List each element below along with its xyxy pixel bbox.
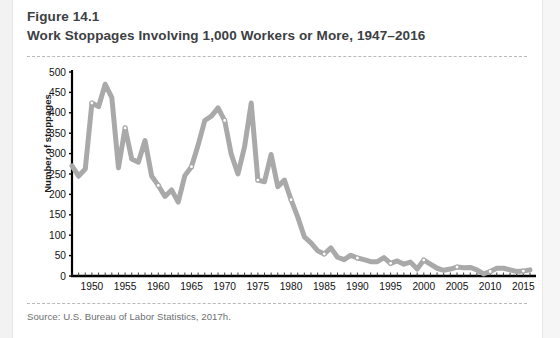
x-tick-label: 1995 [379,281,402,292]
data-point-marker [156,183,160,187]
x-tick-label: 1950 [81,281,104,292]
data-point-marker [256,178,260,182]
data-point-marker [389,261,393,265]
chart-area: Number of stoppages 05010015020025030035… [13,56,542,303]
x-tick-label: 1980 [280,281,303,292]
data-point-marker [521,269,525,273]
x-tick-label: 2000 [412,281,435,292]
figure-label: Figure 14.1 [27,9,99,24]
data-point-marker [123,126,127,130]
x-tick-label: 1975 [247,281,270,292]
data-point-marker [90,101,94,105]
y-tick-label: 0 [60,271,66,282]
data-point-marker [189,165,193,169]
x-tick-label: 1970 [213,281,236,292]
data-point-marker [289,198,293,202]
page-gutter-left [0,0,12,338]
y-tick-label: 50 [55,250,67,261]
data-point-marker [488,270,492,274]
x-tick-label: 2015 [512,281,535,292]
data-line [72,84,530,274]
figure-page: Figure 14.1 Work Stoppages Involving 1,0… [0,0,560,338]
x-tick-label: 1990 [346,281,369,292]
x-tick-label: 2005 [446,281,469,292]
data-point-marker [322,252,326,256]
divider-bottom [27,303,527,304]
x-tick-label: 1985 [313,281,336,292]
x-tick-label: 1965 [180,281,203,292]
data-point-marker [422,258,426,262]
figure-source: Source: U.S. Bureau of Labor Statistics,… [27,311,231,322]
figure-block: Figure 14.1 Work Stoppages Involving 1,0… [13,0,542,338]
y-tick-label: 500 [49,67,66,78]
data-point-marker [223,119,227,123]
y-tick-label: 100 [49,230,66,241]
page-gutter-right [543,0,560,338]
figure-title: Work Stoppages Involving 1,000 Workers o… [27,28,425,43]
y-axis-title: Number of stoppages [42,89,53,199]
line-chart: 0501001502002503003504004505001950195519… [13,56,542,303]
data-point-marker [355,256,359,260]
x-tick-label: 2010 [479,281,502,292]
y-tick-label: 150 [49,209,66,220]
x-tick-label: 1955 [114,281,137,292]
page-edge-right [542,0,543,338]
data-point-marker [455,265,459,269]
x-tick-label: 1960 [147,281,170,292]
